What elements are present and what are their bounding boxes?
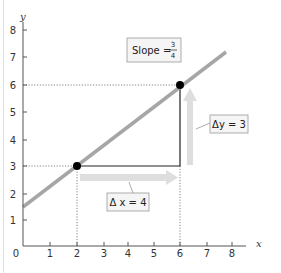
y-axis-title: y [19,11,26,22]
delta-y-arrow [183,88,197,165]
x-tick-label: 8 [229,248,235,259]
x-axis-title: x [256,238,262,249]
data-point-6-6 [176,81,184,89]
slope-numerator: 3 [171,41,175,49]
slope-note: Slope = 3 4 [127,38,181,62]
y-tick-label: 8 [10,25,16,36]
x-tick-label: 5 [151,248,157,259]
y-tick-labels: 1 2 3 4 5 6 7 8 [10,25,16,226]
y-tick-label: 6 [10,80,16,91]
linear-function-line [23,52,226,207]
y-tick-label: 5 [10,107,16,118]
data-point-2-3 [73,162,81,170]
x-tick-label: 3 [101,248,107,259]
delta-x-label: Δ x = 4 [109,197,146,208]
delta-y-leader [196,123,210,129]
y-tick-label: 2 [10,189,16,200]
y-tick-label: 7 [10,52,16,63]
x-tick-label: 7 [204,248,210,259]
y-tick-label: 3 [10,161,16,172]
x-tick-label: 2 [74,248,80,259]
y-tick-label: 4 [10,135,16,146]
x-tick-label: 6 [177,248,183,259]
x-tick-label: 4 [125,248,131,259]
y-tick-label: 1 [10,215,16,226]
delta-y-note: Δy = 3 [196,115,248,133]
x-tick-label: 1 [47,248,53,259]
x-tick-labels: 0 1 2 3 4 5 6 7 8 [13,248,235,259]
slope-chart: y x 1 2 3 4 5 6 7 8 0 1 2 3 4 5 6 7 8 Sl… [0,0,281,273]
slope-label: Slope = [132,45,171,56]
delta-x-leader [129,182,133,193]
delta-x-note: Δ x = 4 [107,182,149,211]
delta-y-label: Δy = 3 [212,119,246,130]
x-tick-label: 0 [13,248,19,259]
slope-denominator: 4 [171,52,176,60]
